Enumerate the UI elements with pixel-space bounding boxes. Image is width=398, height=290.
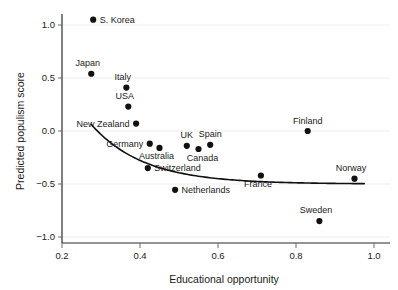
plot-canvas: S. KoreaJapanItalyUSANew ZealandGermanyA… xyxy=(0,0,398,290)
y-tick-labels: 1.00.50.0−0.5−1.0 xyxy=(36,19,55,242)
y-tick-label: 0.5 xyxy=(42,72,55,83)
data-point: UK xyxy=(181,130,194,149)
point-marker xyxy=(184,143,190,149)
point-label: Spain xyxy=(199,129,222,139)
point-label: Japan xyxy=(75,58,100,68)
point-marker xyxy=(125,104,131,110)
y-tick-label: 1.0 xyxy=(42,19,55,30)
data-points: S. KoreaJapanItalyUSANew ZealandGermanyA… xyxy=(75,15,366,224)
y-tick-label: −1.0 xyxy=(36,231,55,242)
point-label: Switzerland xyxy=(154,163,201,173)
data-point: Germany xyxy=(106,139,153,149)
point-label: New Zealand xyxy=(77,119,130,129)
point-label: Sweden xyxy=(300,205,333,215)
point-marker xyxy=(145,165,151,171)
point-marker xyxy=(316,218,322,224)
point-label: Australia xyxy=(139,151,174,161)
data-point: Netherlands xyxy=(172,185,231,195)
point-label: Italy xyxy=(115,72,132,82)
point-marker xyxy=(172,187,178,193)
data-point: Australia xyxy=(139,145,174,162)
trend-curve xyxy=(91,124,364,183)
data-point: Italy xyxy=(115,72,132,91)
data-point: New Zealand xyxy=(77,119,140,129)
point-label: USA xyxy=(116,91,135,101)
point-label: UK xyxy=(181,130,194,140)
x-tick-label: 1.0 xyxy=(367,250,380,261)
point-marker xyxy=(258,172,264,178)
point-label: Germany xyxy=(106,139,144,149)
point-label: S. Korea xyxy=(100,15,135,25)
point-marker xyxy=(147,141,153,147)
point-label: Norway xyxy=(336,163,367,173)
data-point: Japan xyxy=(75,58,100,77)
data-point: Norway xyxy=(336,163,367,182)
point-label: France xyxy=(244,179,272,189)
point-marker xyxy=(156,145,162,151)
data-point: Canada xyxy=(187,146,219,163)
fit-line xyxy=(91,124,364,183)
data-point: Sweden xyxy=(300,205,333,224)
data-point: Spain xyxy=(199,129,222,148)
point-label: Netherlands xyxy=(182,185,231,195)
gridlines xyxy=(62,25,390,237)
y-tick-label: −0.5 xyxy=(36,178,55,189)
data-point: S. Korea xyxy=(90,15,135,25)
x-tick-labels: 0.20.40.60.81.0 xyxy=(55,250,380,261)
x-tick-label: 0.8 xyxy=(289,250,302,261)
point-marker xyxy=(305,128,311,134)
y-axis-title: Predicted populism score xyxy=(14,72,26,190)
point-label: Canada xyxy=(187,153,219,163)
y-tick-label: 0.0 xyxy=(42,125,55,136)
point-marker xyxy=(88,71,94,77)
x-tick-label: 0.4 xyxy=(133,250,146,261)
x-axis-title: Educational opportunity xyxy=(169,273,279,285)
x-tick-label: 0.2 xyxy=(55,250,68,261)
data-point: France xyxy=(244,172,272,189)
point-marker xyxy=(195,146,201,152)
data-point: USA xyxy=(116,91,135,110)
point-label: Finland xyxy=(293,116,323,126)
point-marker xyxy=(207,142,213,148)
x-tick-label: 0.6 xyxy=(211,250,224,261)
point-marker xyxy=(133,120,139,126)
point-marker xyxy=(351,176,357,182)
point-marker xyxy=(90,17,96,23)
scatter-chart: S. KoreaJapanItalyUSANew ZealandGermanyA… xyxy=(0,0,398,290)
